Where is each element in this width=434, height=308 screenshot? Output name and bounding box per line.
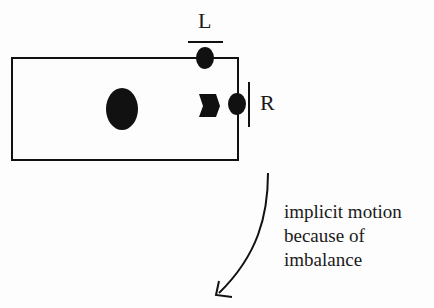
motion-caption: implicit motion because of imbalance [284, 200, 402, 272]
center-mass-dot [106, 88, 138, 130]
notched-block-shape [199, 94, 220, 117]
motion-arrow-curve [219, 173, 268, 293]
right-dot [228, 93, 246, 115]
label-right: R [260, 90, 275, 116]
caption-line: imbalance [284, 248, 402, 272]
left-dot [196, 47, 214, 69]
label-left: L [198, 8, 211, 34]
caption-line: implicit motion [284, 200, 402, 224]
caption-line: because of [284, 224, 402, 248]
